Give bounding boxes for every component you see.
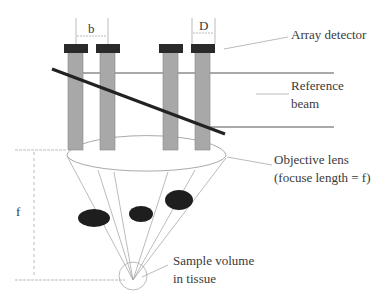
dimension-D: D bbox=[192, 18, 215, 44]
dim-D-label: D bbox=[199, 18, 208, 33]
objective-lens-label-2: (focuse length = f) bbox=[274, 170, 371, 185]
dim-b-label: b bbox=[88, 21, 95, 36]
dim-f-label: f bbox=[16, 204, 21, 219]
diagram-canvas: b D f Array detec bbox=[0, 0, 385, 304]
sample-volume-label-1: Sample volume bbox=[173, 253, 254, 268]
sample-volume-circle bbox=[119, 262, 147, 290]
objective-lens-label-1: Objective lens bbox=[274, 152, 349, 167]
reference-beam-label-2: beam bbox=[291, 96, 319, 111]
array-detector-label: Array detector bbox=[291, 27, 367, 42]
dimension-b: b bbox=[76, 18, 108, 44]
reference-beam-label-1: Reference bbox=[291, 78, 344, 93]
sample-volume-label-2: in tissue bbox=[173, 271, 216, 286]
array-detector-caps bbox=[64, 44, 215, 53]
objective-lens-front bbox=[67, 156, 226, 171]
